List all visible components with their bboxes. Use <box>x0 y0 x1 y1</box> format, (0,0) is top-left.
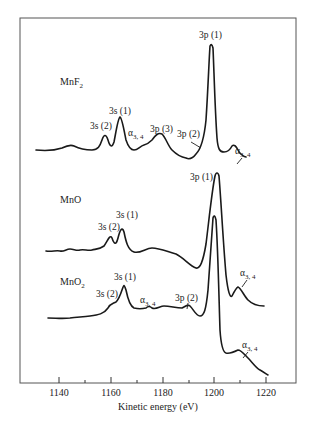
x-tick-label: 1180 <box>153 387 173 398</box>
x-tick-label: 1220 <box>256 387 276 398</box>
sample-label-mno2: MnO2 <box>60 276 85 290</box>
peak-label-3s2: 3s (2) <box>98 222 120 233</box>
curve-mno2 <box>48 216 268 375</box>
arrow <box>191 142 201 148</box>
peak-label-3s1: 3s (1) <box>116 210 138 221</box>
sample-label-mno: MnO <box>60 194 81 205</box>
x-tick-label: 1160 <box>101 387 121 398</box>
peak-label-3p1: 3p (1) <box>190 172 213 183</box>
peak-label-3s2: 3s (2) <box>90 121 112 132</box>
x-axis-label: Kinetic energy (eV) <box>118 401 198 413</box>
sample-label-mnf2: MnF2 <box>60 76 83 90</box>
curve-mnf2 <box>36 45 246 159</box>
arrow <box>187 303 188 309</box>
peak-label-3s2: 3s (2) <box>96 289 118 300</box>
peak-label-alpha34: α3, 4 <box>242 340 258 353</box>
spectrum-figure: 1140 1160 1180 1200 1220 Kinetic energy … <box>0 0 311 423</box>
peak-label-alpha34: α3, 4 <box>240 268 256 281</box>
x-axis: 1140 1160 1180 1200 1220 Kinetic energy … <box>49 377 276 413</box>
peak-label-3p1: 3p (1) <box>199 30 222 41</box>
peak-label-alpha34: α3, 4 <box>235 146 251 159</box>
peak-label-alpha34: α3, 4 <box>128 128 144 141</box>
peak-label-alpha34: α3, 4 <box>140 295 156 308</box>
peak-label-3p3: 3p (3) <box>150 124 173 135</box>
arrow <box>242 280 247 287</box>
peak-label-3s1: 3s (1) <box>114 272 136 283</box>
x-tick-label: 1200 <box>204 387 224 398</box>
peak-label-3p2: 3p (2) <box>177 129 200 140</box>
peak-label-3s1: 3s (1) <box>109 106 131 117</box>
peak-label-3p2: 3p (2) <box>175 293 198 304</box>
x-tick-label: 1140 <box>49 387 69 398</box>
